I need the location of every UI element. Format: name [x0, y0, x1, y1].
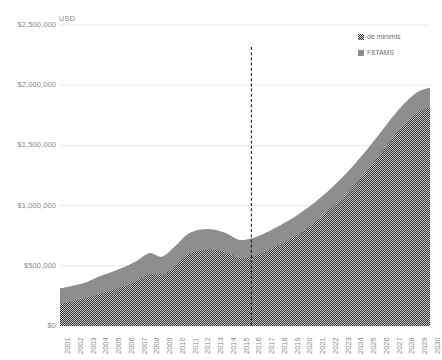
legend-item[interactable]: F8TAMS	[358, 49, 400, 56]
x-axis-tick-label: 2002	[76, 337, 85, 354]
x-axis-tick-label: 2029	[420, 337, 429, 354]
x-axis-tick-label: 2023	[344, 337, 353, 354]
x-axis-tick-label: 2005	[114, 337, 123, 354]
x-axis-tick-label: 2016	[254, 337, 263, 354]
y-axis-tick-label: $1,500,000	[0, 140, 56, 149]
x-axis-tick-label: 2007	[140, 337, 149, 354]
x-axis-tick-label: 2011	[191, 338, 200, 354]
legend-item-label: F8TAMS	[367, 49, 394, 56]
y-axis-tick-label: $500,000	[0, 261, 56, 270]
y-axis-unit-label: USD	[59, 14, 75, 23]
x-axis-tick-label: 2019	[293, 337, 302, 354]
x-axis-tick-label: 2008	[152, 337, 161, 354]
x-axis-tick-label: 2017	[267, 337, 276, 354]
chart-legend: de minimisF8TAMS	[358, 33, 400, 65]
x-axis-tick-label: 2024	[356, 337, 365, 354]
x-axis-tick-label: 2009	[165, 337, 174, 354]
de-minimis-swatch	[358, 34, 364, 40]
x-axis-tick-label: 2004	[101, 337, 110, 354]
x-axis-tick-label: 2026	[382, 337, 391, 354]
x-axis-tick-label: 2015	[242, 337, 251, 354]
f8tams-swatch	[358, 50, 364, 56]
x-axis-tick-label: 2010	[178, 337, 187, 354]
y-axis-tick-label: $2,000,000	[0, 80, 56, 89]
y-axis-tick-label: $2,500,000	[0, 20, 56, 29]
x-axis-tick-label: 2003	[89, 337, 98, 354]
x-axis-tick-label: 2018	[280, 337, 289, 354]
series-area-f8tams	[60, 107, 430, 326]
x-axis-tick-label: 2025	[369, 337, 378, 354]
x-axis-tick-label: 2027	[395, 337, 404, 354]
y-axis-tick-label: $0	[0, 321, 56, 330]
x-axis-tick-label: 2020	[305, 337, 314, 354]
x-axis-tick-label: 2014	[229, 337, 238, 354]
x-axis-tick-label: 2006	[127, 337, 136, 354]
x-axis-tick-label: 2030	[433, 337, 442, 354]
y-axis-tick-label: $1,000,000	[0, 201, 56, 210]
x-axis-tick-label: 2021	[318, 337, 327, 354]
legend-item-label: de minimis	[367, 33, 400, 40]
legend-item[interactable]: de minimis	[358, 33, 400, 40]
x-axis-tick-label: 2013	[216, 337, 225, 354]
x-axis-tick-label: 2012	[203, 337, 212, 354]
x-axis-tick-label: 2028	[407, 337, 416, 354]
x-axis-tick-label: 2001	[63, 337, 72, 354]
x-axis-tick-label: 2022	[331, 337, 340, 354]
